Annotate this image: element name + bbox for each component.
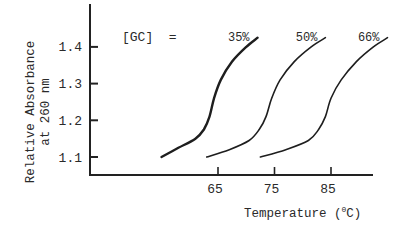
x-tick-label: 75 [264, 182, 280, 197]
legend-gc-label: [GC] = [122, 30, 177, 45]
series-label-gc-66: 66% [358, 31, 380, 45]
x-axis-label: Temperature (0C) [244, 205, 361, 221]
series-label-gc-35: 35% [228, 31, 250, 45]
y-ticks: 1.11.21.31.4 [59, 40, 98, 165]
series-label-gc-50: 50% [296, 31, 318, 45]
curve-gc-35 [162, 38, 258, 157]
x-tick-label: 65 [207, 182, 223, 197]
melting-curve-chart: 1.11.21.31.4 657585 Relative Absorbance … [0, 0, 413, 228]
series-group: 35%50%66% [162, 31, 388, 157]
y-axis-label-line1: Relative Absorbance [24, 41, 38, 184]
x-tick-label: 85 [320, 182, 336, 197]
y-tick-label: 1.1 [59, 151, 83, 166]
y-tick-label: 1.4 [59, 40, 83, 55]
y-tick-label: 1.2 [59, 114, 82, 129]
curve-gc-66 [260, 38, 387, 157]
x-ticks: 657585 [207, 167, 336, 197]
curve-gc-50 [207, 38, 326, 157]
y-axis-label-line2: at 260 nm [39, 78, 53, 146]
y-tick-label: 1.3 [59, 77, 82, 92]
